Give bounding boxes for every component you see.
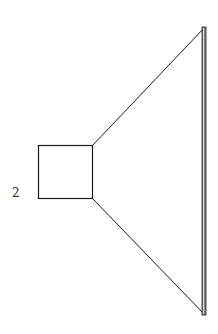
speaker-diagram <box>0 0 218 334</box>
driver-square <box>39 146 93 199</box>
cone-bottom-edge <box>93 199 206 316</box>
cone-mouth-bar <box>202 27 206 315</box>
cone-top-edge <box>93 27 206 146</box>
node-label: 2 <box>12 187 20 199</box>
